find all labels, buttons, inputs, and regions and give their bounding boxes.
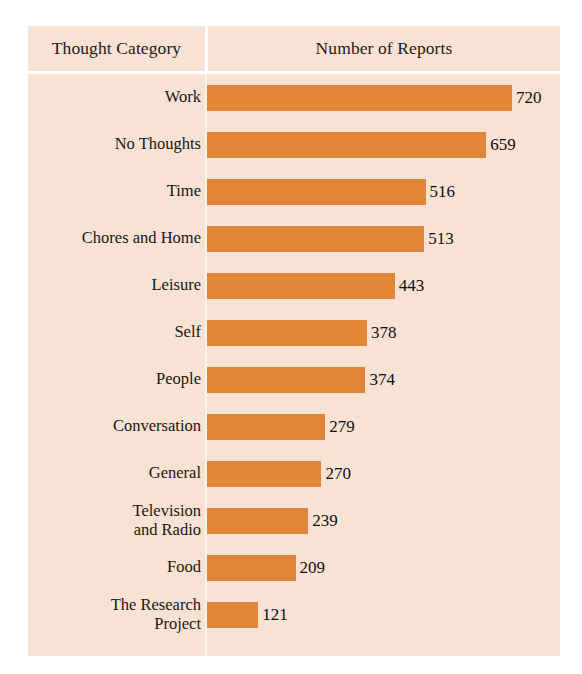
bar-row: General270: [28, 450, 560, 497]
bar-category-label: Television and Radio: [33, 497, 201, 544]
bar-row: No Thoughts659: [28, 121, 560, 168]
bar-category-label: Work: [33, 74, 201, 121]
bar-rows-container: Work720No Thoughts659Time516Chores and H…: [28, 74, 560, 638]
bar-row: People374: [28, 356, 560, 403]
bar-track: 209: [207, 544, 560, 591]
bar: [207, 226, 424, 252]
bar-value-label: 209: [300, 559, 326, 576]
bar-track: 659: [207, 121, 560, 168]
bar-row: Television and Radio239: [28, 497, 560, 544]
bar-track: 516: [207, 168, 560, 215]
bar-category-label: The Research Project: [33, 591, 201, 638]
bar-row: Leisure443: [28, 262, 560, 309]
bar: [207, 508, 308, 534]
bar: [207, 273, 395, 299]
bar-row: Conversation279: [28, 403, 560, 450]
bar-value-label: 513: [428, 230, 454, 247]
bar-category-label: General: [33, 450, 201, 497]
bar-row: The Research Project121: [28, 591, 560, 638]
bar: [207, 179, 426, 205]
bar-track: 121: [207, 591, 560, 638]
header-column-divider: [205, 26, 208, 71]
bar-value-label: 516: [430, 183, 456, 200]
bar-row: Food209: [28, 544, 560, 591]
column-header-number-of-reports: Number of Reports: [208, 26, 560, 71]
bar-category-label: No Thoughts: [33, 121, 201, 168]
bar-row: Work720: [28, 74, 560, 121]
bar-value-label: 270: [325, 465, 351, 482]
bar: [207, 602, 258, 628]
bar: [207, 85, 512, 111]
bar-track: 720: [207, 74, 560, 121]
bar-value-label: 659: [490, 136, 516, 153]
bar: [207, 132, 486, 158]
bar-value-label: 374: [369, 371, 395, 388]
bar: [207, 461, 321, 487]
bar: [207, 555, 296, 581]
bar-category-label: People: [33, 356, 201, 403]
bar-value-label: 121: [262, 606, 288, 623]
bar-row: Self378: [28, 309, 560, 356]
bar-row: Chores and Home513: [28, 215, 560, 262]
bar-category-label: Chores and Home: [33, 215, 201, 262]
bar-track: 513: [207, 215, 560, 262]
bar-track: 239: [207, 497, 560, 544]
bar-row: Time516: [28, 168, 560, 215]
bar: [207, 367, 365, 393]
bar-category-label: Self: [33, 309, 201, 356]
bar-track: 443: [207, 262, 560, 309]
bar-track: 374: [207, 356, 560, 403]
bar-value-label: 239: [312, 512, 338, 529]
bar-track: 270: [207, 450, 560, 497]
bar-value-label: 378: [371, 324, 397, 341]
bar: [207, 414, 325, 440]
bar-value-label: 720: [516, 89, 542, 106]
bar-category-label: Leisure: [33, 262, 201, 309]
bar: [207, 320, 367, 346]
bar-track: 279: [207, 403, 560, 450]
bar-category-label: Time: [33, 168, 201, 215]
bar-chart-panel: Thought Category Number of Reports Work7…: [28, 26, 560, 656]
bar-category-label: Conversation: [33, 403, 201, 450]
bar-track: 378: [207, 309, 560, 356]
bar-category-label: Food: [33, 544, 201, 591]
column-header-thought-category: Thought Category: [28, 26, 205, 71]
table-header-row: Thought Category Number of Reports: [28, 26, 560, 71]
bar-value-label: 443: [399, 277, 425, 294]
bar-value-label: 279: [329, 418, 355, 435]
